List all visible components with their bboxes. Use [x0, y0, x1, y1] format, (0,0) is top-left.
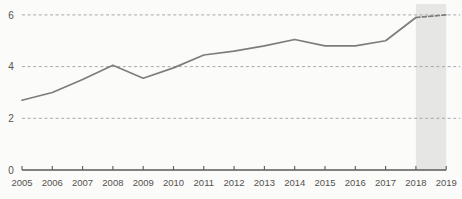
y-axis-labels: 0246	[8, 10, 14, 176]
y-tick-label: 0	[8, 165, 14, 176]
chart-canvas: 0246200520062007200820092010201120122013…	[0, 0, 462, 199]
x-tick-label: 2012	[224, 177, 245, 188]
x-tick-label: 2007	[72, 177, 93, 188]
y-tick-label: 4	[8, 61, 14, 72]
x-tick-label: 2019	[436, 177, 457, 188]
data-series-line	[22, 15, 446, 100]
x-tick-label: 2011	[194, 177, 214, 188]
line-chart: 0246200520062007200820092010201120122013…	[0, 0, 462, 199]
x-tick-label: 2013	[254, 177, 275, 188]
x-axis-labels: 2005200620072008200920102011201220132014…	[11, 177, 456, 188]
x-tick-label: 2014	[284, 177, 305, 188]
x-tick-label: 2018	[405, 177, 426, 188]
x-tick-label: 2006	[42, 177, 63, 188]
series-line-actual	[22, 17, 416, 100]
x-tick-label: 2005	[11, 177, 32, 188]
x-tick-label: 2009	[133, 177, 154, 188]
x-tick-label: 2015	[314, 177, 335, 188]
forecast-shaded-band	[416, 4, 446, 170]
x-tick-label: 2008	[102, 177, 123, 188]
gridlines	[22, 15, 460, 118]
x-tick-label: 2016	[345, 177, 366, 188]
x-tick-label: 2017	[375, 177, 396, 188]
y-tick-label: 2	[8, 113, 14, 124]
y-tick-label: 6	[8, 10, 14, 21]
x-axis	[22, 166, 446, 170]
x-tick-label: 2010	[163, 177, 184, 188]
